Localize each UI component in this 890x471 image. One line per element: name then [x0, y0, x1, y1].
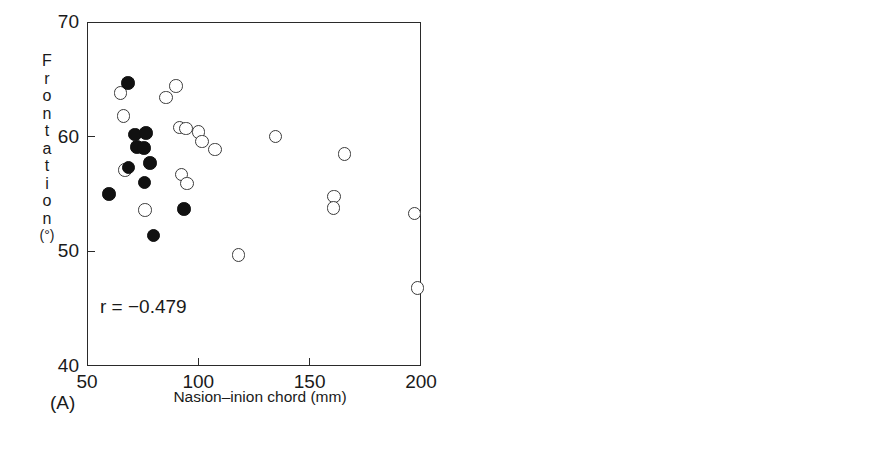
- y-axis-title-char: i: [36, 175, 58, 193]
- y-axis-title-a: Frontation(°): [36, 52, 58, 245]
- x-axis-title-a: Nasion–inion chord (mm): [120, 388, 400, 406]
- data-point-open: [411, 281, 425, 295]
- y-axis-title-char: o: [36, 87, 58, 105]
- panel-b: 4050607030405060708090 Frontation(°) Nas…: [445, 0, 890, 471]
- y-axis-title-char: n: [36, 210, 58, 228]
- data-point-open: [169, 79, 183, 93]
- y-axis-title-char: o: [36, 192, 58, 210]
- figure-root: 4050607050100150200 Frontation(°) Nasion…: [0, 0, 890, 471]
- data-point-open: [338, 147, 352, 161]
- data-point-open: [208, 143, 222, 157]
- y-axis-title-char: F: [36, 52, 58, 70]
- data-point-filled: [177, 202, 191, 216]
- x-tick-label-200: 200: [396, 372, 446, 391]
- y-axis-title-char: n: [36, 105, 58, 123]
- y-axis-title-char: t: [36, 157, 58, 175]
- data-point-filled: [137, 141, 151, 155]
- y-axis-title-char: a: [36, 140, 58, 158]
- panel-a: 4050607050100150200 Frontation(°) Nasion…: [0, 0, 445, 471]
- data-point-open: [159, 91, 173, 105]
- y-tick-50: [87, 251, 95, 253]
- data-point-filled: [143, 156, 157, 170]
- y-tick-label-70: 70: [45, 12, 79, 31]
- data-point-open: [327, 201, 341, 215]
- correlation-annotation-a: r = −0.479: [100, 296, 187, 318]
- x-tick-label-50: 50: [62, 372, 112, 391]
- data-point-open: [232, 248, 246, 262]
- data-point-open: [138, 203, 152, 217]
- data-point-open: [179, 122, 193, 136]
- panel-label-a: (A): [50, 392, 75, 414]
- y-axis-title-char: t: [36, 122, 58, 140]
- x-tick-100: [198, 358, 200, 366]
- data-point-open: [117, 109, 131, 123]
- y-axis-title-char: (°): [36, 227, 58, 245]
- data-point-filled: [121, 76, 135, 90]
- data-point-filled: [102, 187, 116, 201]
- data-point-open: [180, 177, 194, 191]
- y-axis-title-char: r: [36, 70, 58, 88]
- data-point-filled: [139, 126, 153, 140]
- data-point-open: [195, 135, 209, 149]
- x-tick-150: [309, 358, 311, 366]
- y-tick-60: [87, 136, 95, 138]
